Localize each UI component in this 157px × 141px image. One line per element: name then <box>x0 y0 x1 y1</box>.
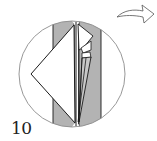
curved-arrow-icon <box>117 5 154 23</box>
step-number-label: 10 <box>11 118 32 138</box>
magnified-view <box>19 18 126 130</box>
